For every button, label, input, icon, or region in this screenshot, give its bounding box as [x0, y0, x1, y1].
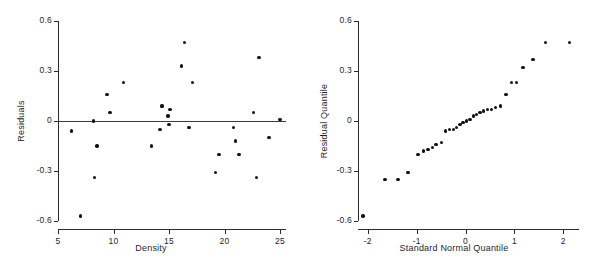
data-point — [183, 41, 186, 44]
data-point — [234, 139, 237, 142]
data-point — [217, 153, 220, 156]
x-axis-tick — [563, 230, 564, 234]
x-axis-title: Density — [0, 243, 302, 253]
y-axis-tick-label: 0 — [24, 115, 52, 125]
x-axis-line — [358, 229, 579, 230]
data-point — [440, 141, 443, 144]
data-point — [499, 104, 502, 107]
data-point — [490, 108, 493, 111]
data-point — [422, 149, 425, 152]
x-axis-tick — [169, 230, 170, 234]
data-point — [161, 104, 164, 107]
data-point — [150, 144, 153, 147]
x-axis-line — [58, 229, 286, 230]
data-point — [214, 171, 217, 174]
y-axis-tick — [54, 71, 58, 72]
x-axis-tick — [114, 230, 115, 234]
data-point — [455, 126, 458, 129]
data-point — [278, 118, 281, 121]
data-point — [521, 66, 524, 69]
data-point — [531, 58, 534, 61]
y-axis-tick-label: -0.6 — [24, 215, 52, 225]
y-axis-tick-label: 0.6 — [24, 15, 52, 25]
data-point — [180, 64, 183, 67]
data-point — [95, 144, 98, 147]
data-point — [482, 109, 485, 112]
x-axis-tick — [514, 230, 515, 234]
data-point — [267, 136, 270, 139]
y-axis-tick — [54, 21, 58, 22]
data-point — [252, 111, 255, 114]
data-point — [361, 214, 364, 217]
data-point — [158, 128, 161, 131]
x-axis-tick — [466, 230, 467, 234]
data-point — [494, 106, 497, 109]
data-point — [486, 108, 489, 111]
data-point — [108, 111, 111, 114]
y-axis-tick — [354, 121, 358, 122]
data-point — [396, 178, 399, 181]
data-point — [187, 126, 190, 129]
data-point — [167, 123, 170, 126]
x-axis-tick — [58, 230, 59, 234]
data-point — [568, 41, 571, 44]
data-point — [93, 176, 96, 179]
data-point — [255, 176, 258, 179]
data-point — [406, 171, 409, 174]
plot-area-left: 0.60.30-0.3-0.6510152025DensityResiduals — [0, 0, 302, 275]
y-axis-tick — [54, 171, 58, 172]
data-point — [544, 41, 547, 44]
x-axis-tick — [225, 230, 226, 234]
figure-container: 0.60.30-0.3-0.6510152025DensityResiduals… — [0, 0, 605, 275]
data-point — [168, 108, 171, 111]
data-point — [70, 129, 73, 132]
data-point — [431, 146, 434, 149]
y-axis-tick-label: 0.3 — [24, 65, 52, 75]
x-axis-tick — [417, 230, 418, 234]
y-axis-tick — [354, 171, 358, 172]
y-axis-tick-label: -0.3 — [24, 165, 52, 175]
y-axis-tick — [354, 71, 358, 72]
x-axis-tick — [280, 230, 281, 234]
data-point — [426, 148, 429, 151]
y-axis-line — [358, 21, 359, 221]
y-axis-tick — [54, 221, 58, 222]
data-point — [105, 93, 108, 96]
data-point — [510, 81, 513, 84]
y-axis-tick — [354, 21, 358, 22]
y-axis-title: Residuals — [16, 21, 26, 221]
data-point — [434, 143, 437, 146]
data-point — [232, 126, 235, 129]
panel-residuals-vs-density: 0.60.30-0.3-0.6510152025DensityResiduals — [0, 0, 302, 275]
data-point — [92, 119, 95, 122]
data-point — [122, 81, 125, 84]
data-point — [444, 129, 447, 132]
plot-area-right: 0.60.30-0.3-0.6-2-1012Standard Normal Qu… — [303, 0, 605, 275]
data-point — [468, 118, 471, 121]
y-axis-title: Residual Quantile — [319, 21, 329, 221]
y-axis-tick — [354, 221, 358, 222]
data-point — [448, 128, 451, 131]
panel-normal-qq-plot: 0.60.30-0.3-0.6-2-1012Standard Normal Qu… — [303, 0, 605, 275]
x-axis-tick — [368, 230, 369, 234]
data-point — [416, 153, 419, 156]
data-point — [383, 178, 386, 181]
data-point — [504, 93, 507, 96]
data-point — [257, 56, 260, 59]
data-point — [79, 214, 82, 217]
data-point — [166, 114, 169, 117]
data-point — [237, 153, 240, 156]
data-point — [191, 81, 194, 84]
x-axis-title: Standard Normal Quantile — [303, 243, 605, 253]
data-point — [515, 81, 518, 84]
